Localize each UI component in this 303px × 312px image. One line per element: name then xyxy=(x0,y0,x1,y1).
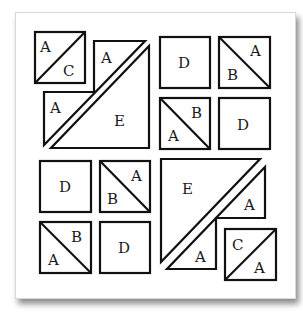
label-b: B xyxy=(107,190,118,208)
label-a: A xyxy=(130,167,142,185)
label-d: D xyxy=(178,54,190,72)
bottom-right-quadrant: E A A C A xyxy=(161,159,276,280)
piece-ca-box: C A xyxy=(225,229,276,280)
label-c: C xyxy=(63,62,74,80)
label-b: B xyxy=(71,228,82,246)
label-a: A xyxy=(47,251,59,269)
piece-ba-box: A B xyxy=(219,37,270,88)
piece-ac-box: A C xyxy=(35,32,85,83)
label-a-upper: A xyxy=(243,196,255,214)
piece-ba-box: A B xyxy=(100,161,150,212)
label-b: B xyxy=(191,104,202,122)
label-e: E xyxy=(114,112,125,130)
label-a-lower: A xyxy=(194,248,206,266)
top-left-quadrant: A C A A E xyxy=(35,32,149,148)
piece-d-square: D xyxy=(160,37,210,88)
piece-d-square: D xyxy=(100,222,150,273)
quilt-cutting-diagram: A C A A E D A xyxy=(0,0,303,312)
label-c: C xyxy=(232,236,243,254)
label-d: D xyxy=(59,178,71,196)
piece-d-square: D xyxy=(40,161,91,212)
piece-ab-box: B A xyxy=(160,98,210,149)
label-b: B xyxy=(227,66,238,84)
top-right-quadrant: D A B B A D xyxy=(160,37,270,149)
label-a: A xyxy=(249,42,261,60)
piece-ab-box: B A xyxy=(40,222,91,273)
label-a: A xyxy=(253,259,265,277)
label-a: A xyxy=(39,38,51,56)
label-a: A xyxy=(167,127,179,145)
label-e: E xyxy=(182,180,193,198)
piece-d-square: D xyxy=(219,98,270,149)
label-a-lower: A xyxy=(49,99,61,117)
label-d: D xyxy=(237,116,249,134)
label-d: D xyxy=(118,239,130,257)
bottom-left-quadrant: D A B B A D xyxy=(40,161,150,273)
label-a-upper: A xyxy=(100,49,112,67)
